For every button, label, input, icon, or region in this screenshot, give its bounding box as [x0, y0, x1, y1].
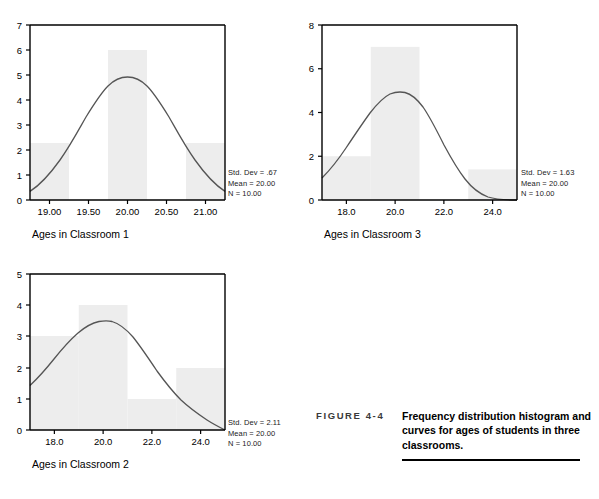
plot-bars-classroom-2	[30, 305, 225, 430]
y-tick-label: 0	[17, 195, 22, 206]
x-tick-label: 24.0	[191, 436, 210, 447]
y-tick-label: 7	[17, 20, 22, 31]
histogram-bar	[371, 47, 420, 200]
x-tick-label: 20.0	[94, 436, 113, 447]
stats-block-classroom-2: Std. Dev = 2.11 Mean = 20.00 N = 10.00	[228, 418, 281, 450]
x-axis-title-classroom-2: Ages in Classroom 2	[32, 458, 129, 470]
histogram-bar	[108, 50, 147, 200]
x-axis-title-classroom-1: Ages in Classroom 1	[32, 228, 129, 240]
x-tick-label: 22.0	[143, 436, 162, 447]
y-tick-label: 2	[17, 363, 22, 374]
n-text: N = 10.00	[228, 189, 277, 200]
caption-rule	[402, 459, 580, 461]
x-tick-label: 21.00	[194, 206, 218, 217]
chart-panel-classroom-1: 7 6 5 4 3 2 1 0 19.00 19.50 20.00 20.50	[0, 0, 250, 250]
figure-caption: FIGURE 4-4 Frequency distribution histog…	[316, 409, 592, 461]
x-tick-label: 24.0	[483, 206, 502, 217]
figure-page: 7 6 5 4 3 2 1 0 19.00 19.50 20.00 20.50	[0, 0, 599, 499]
y-tick-label: 3	[17, 120, 22, 131]
y-tick-label: 4	[17, 95, 22, 106]
x-tick-label: 18.0	[45, 436, 64, 447]
x-tick-label: 20.00	[116, 206, 140, 217]
chart-svg-classroom-1: 7 6 5 4 3 2 1 0 19.00 19.50 20.00 20.50	[0, 0, 250, 250]
chart-panel-classroom-2: 5 4 3 2 1 0 18.0 20.0 22.0 24.0 Ages in …	[0, 255, 250, 499]
y-axis-labels-classroom-3: 8 6 4 2 0	[309, 20, 314, 206]
x-tick-label: 19.00	[38, 206, 62, 217]
n-text: N = 10.00	[228, 439, 281, 450]
figure-number-label: FIGURE 4-4	[316, 409, 402, 421]
y-tick-label: 0	[309, 195, 314, 206]
y-tick-label: 0	[17, 425, 22, 436]
std-dev-text: Std. Dev = 1.63	[521, 168, 574, 179]
std-dev-text: Std. Dev = .67	[228, 168, 277, 179]
y-tick-label: 1	[17, 394, 22, 405]
figure-caption-text: Frequency distribution histogram and cur…	[402, 409, 592, 452]
y-tick-label: 1	[17, 170, 22, 181]
chart-svg-classroom-3: 8 6 4 2 0 18.0 20.0 22.0 24.0 Ages in Cl…	[300, 0, 530, 250]
histogram-bar	[322, 156, 371, 200]
y-tick-label: 6	[309, 63, 314, 74]
histogram-bar	[176, 368, 225, 430]
y-tick-label: 2	[309, 151, 314, 162]
n-text: N = 10.00	[521, 189, 574, 200]
histogram-bar	[468, 169, 517, 200]
y-tick-label: 6	[17, 45, 22, 56]
histogram-bar	[79, 305, 128, 430]
x-axis-labels-classroom-2: 18.0 20.0 22.0 24.0	[45, 436, 210, 447]
mean-text: Mean = 20.00	[228, 179, 277, 190]
x-axis-labels-classroom-1: 19.00 19.50 20.00 20.50 21.00	[38, 206, 218, 217]
histogram-bar	[30, 143, 69, 200]
chart-svg-classroom-2: 5 4 3 2 1 0 18.0 20.0 22.0 24.0 Ages in …	[0, 255, 250, 499]
y-axis-labels-classroom-2: 5 4 3 2 1 0	[17, 269, 22, 436]
chart-panel-classroom-3: 8 6 4 2 0 18.0 20.0 22.0 24.0 Ages in Cl…	[300, 0, 530, 250]
y-tick-label: 2	[17, 145, 22, 156]
plot-bars-classroom-1	[30, 50, 225, 200]
mean-text: Mean = 20.00	[228, 429, 281, 440]
stats-block-classroom-1: Std. Dev = .67 Mean = 20.00 N = 10.00	[228, 168, 277, 200]
plot-bars-classroom-3	[322, 47, 517, 200]
std-dev-text: Std. Dev = 2.11	[228, 418, 281, 429]
histogram-bar	[30, 336, 79, 430]
x-tick-label: 20.0	[386, 206, 405, 217]
y-tick-label: 5	[17, 70, 22, 81]
x-axis-labels-classroom-3: 18.0 20.0 22.0 24.0	[337, 206, 502, 217]
y-tick-label: 4	[17, 300, 22, 311]
y-axis-labels-classroom-1: 7 6 5 4 3 2 1 0	[17, 20, 22, 206]
x-tick-label: 19.50	[77, 206, 101, 217]
x-tick-label: 18.0	[337, 206, 356, 217]
mean-text: Mean = 20.00	[521, 179, 574, 190]
x-tick-label: 22.0	[435, 206, 454, 217]
stats-block-classroom-3: Std. Dev = 1.63 Mean = 20.00 N = 10.00	[521, 168, 574, 200]
y-tick-label: 3	[17, 331, 22, 342]
histogram-bar	[186, 143, 225, 200]
y-tick-label: 4	[309, 107, 314, 118]
y-tick-label: 8	[309, 20, 314, 31]
x-tick-label: 20.50	[155, 206, 179, 217]
histogram-bar	[128, 399, 177, 430]
x-axis-title-classroom-3: Ages in Classroom 3	[324, 228, 421, 240]
y-tick-label: 5	[17, 269, 22, 280]
